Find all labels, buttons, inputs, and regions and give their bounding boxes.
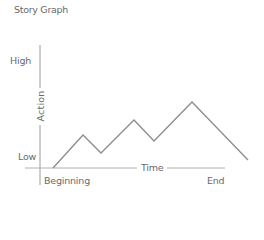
x-axis-label: Time [141, 162, 163, 173]
x-start-label: Beginning [44, 175, 90, 186]
x-end-label: End [207, 175, 224, 186]
story-arc-line [53, 102, 248, 168]
y-axis-label: Action [35, 91, 46, 122]
y-low-label: Low [18, 151, 36, 162]
y-high-label: High [10, 55, 31, 66]
